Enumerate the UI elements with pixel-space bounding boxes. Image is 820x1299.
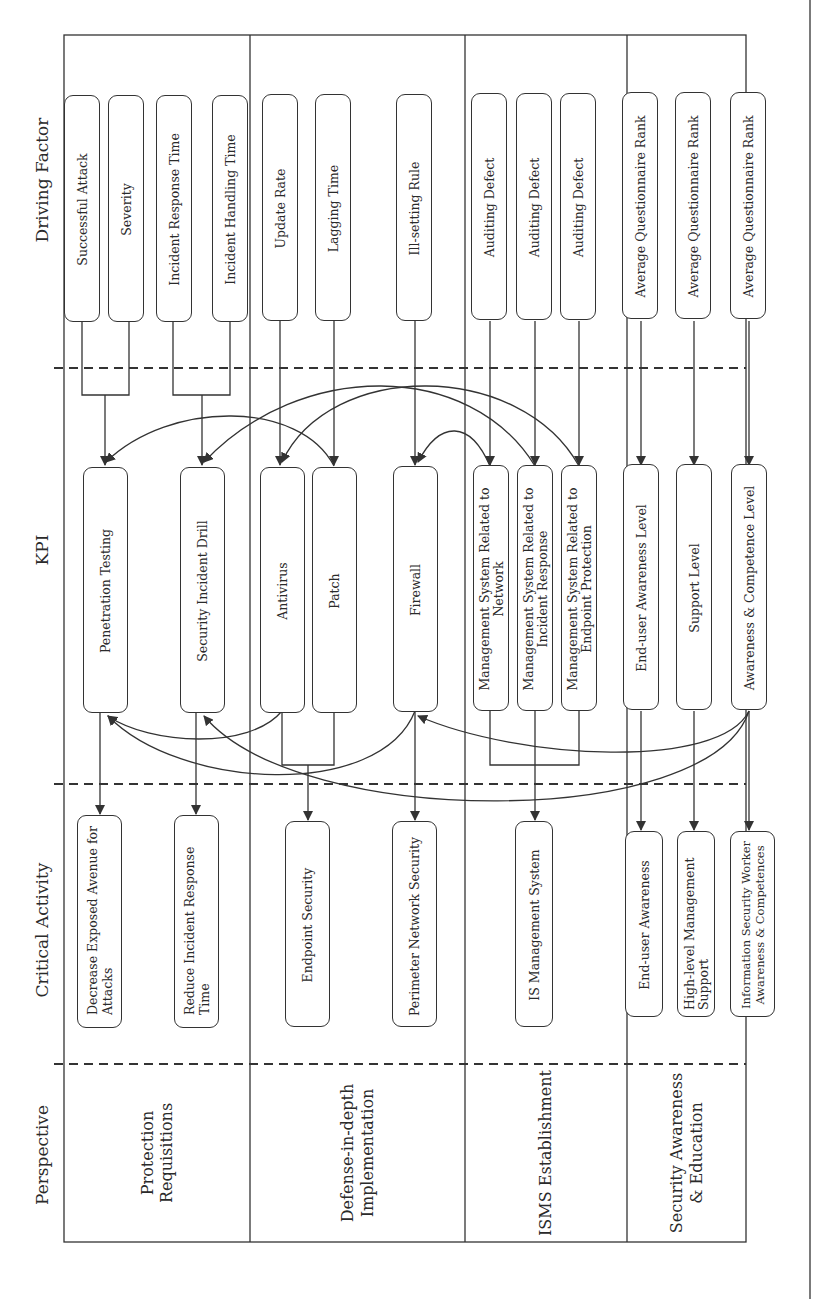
critical-activity-node[interactable]: IS Management System <box>515 821 553 1027</box>
kpi-node[interactable]: Firewall <box>393 466 438 712</box>
kpi-node[interactable]: Support Level <box>676 464 712 710</box>
kpi-node[interactable]: Penetration Testing <box>83 467 128 713</box>
header-driving-factor: Driving Factor <box>30 30 56 330</box>
perspective-defense-in-depth: Defense-in-depth Implementation <box>250 1064 465 1242</box>
header-perspective: Perspective <box>30 1070 56 1240</box>
kpi-node[interactable]: End-user Awareness Level <box>623 464 659 710</box>
critical-activity-node[interactable]: Reduce Incident Response Time <box>174 815 219 1028</box>
kpi-node[interactable]: Patch <box>312 467 357 713</box>
critical-activity-node[interactable]: Perimeter Network Security <box>392 821 437 1027</box>
driving-factor-node[interactable]: Average Questionnaire Rank <box>675 92 711 319</box>
driving-factor-node[interactable]: Update Rate <box>262 94 298 321</box>
header-critical-activity: Critical Activity <box>30 800 56 1060</box>
driving-factor-node[interactable]: Auditing Defect <box>471 93 507 320</box>
driving-factor-node[interactable]: Auditing Defect <box>560 93 596 320</box>
kpi-node[interactable]: Security Incident Drill <box>180 467 225 713</box>
driving-factor-node[interactable]: Incident Handling Time <box>212 95 248 322</box>
driving-factor-node[interactable]: Average Questionnaire Rank <box>622 92 658 319</box>
kpi-node[interactable]: Management System Related to Incident Re… <box>517 465 553 711</box>
driving-factor-node[interactable]: Incident Response Time <box>156 95 192 322</box>
perspective-security-awareness: Security Awareness & Education <box>627 1064 746 1242</box>
critical-activity-node[interactable]: Information Security Worker Awareness & … <box>730 831 775 1017</box>
critical-activity-node[interactable]: End-user Awareness <box>625 831 663 1017</box>
critical-activity-node[interactable]: Endpoint Security <box>285 821 330 1027</box>
kpi-node[interactable]: Management System Related to Endpoint Pr… <box>561 465 597 711</box>
kpi-framework-diagram: Driving Factor KPI Critical Activity Per… <box>0 0 820 1299</box>
critical-activity-node[interactable]: Decrease Exposed Avenue for Attacks <box>77 815 122 1028</box>
driving-factor-node[interactable]: Successful Attack <box>64 95 100 322</box>
header-kpi: KPI <box>30 400 56 700</box>
driving-factor-node[interactable]: Severity <box>108 95 144 322</box>
driving-factor-node[interactable]: Ill-setting Rule <box>396 94 432 321</box>
perspective-isms: ISMS Establishment <box>465 1064 627 1242</box>
driving-factor-node[interactable]: Average Questionnaire Rank <box>730 92 766 319</box>
kpi-node[interactable]: Awareness & Competence Level <box>731 464 767 710</box>
driving-factor-node[interactable]: Auditing Defect <box>516 93 552 320</box>
perspective-protection: Protection Requisitions <box>64 1064 250 1242</box>
kpi-node[interactable]: Management System Related to Network <box>473 465 509 711</box>
critical-activity-node[interactable]: High-level Management Support <box>677 831 715 1017</box>
kpi-node[interactable]: Antivirus <box>260 467 305 713</box>
driving-factor-node[interactable]: Lagging Time <box>315 94 351 321</box>
